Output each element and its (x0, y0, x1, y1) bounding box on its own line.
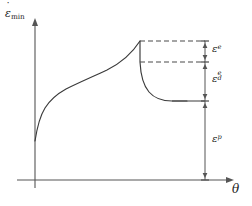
y-axis-label: ˙ ε min (5, 8, 25, 20)
superscript-p: p (217, 133, 221, 141)
strain-curve-rise (35, 41, 140, 141)
y-axis (32, 18, 38, 188)
annotation-elastic-strain: εe (212, 44, 221, 54)
theta-symbol: θ (232, 182, 239, 196)
y-axis-subscript: min (11, 12, 25, 21)
annotation-delayed-elastic-strain: εed (212, 72, 223, 84)
annotation-plastic-strain: εp (212, 134, 222, 144)
strain-curve-unload (140, 41, 187, 101)
superscript-e: e (217, 43, 221, 51)
subscript-d: d (217, 75, 221, 82)
plot-canvas (0, 0, 252, 206)
epsilon-dot-glyph: ˙ ε (5, 8, 11, 19)
strain-rate-diagram: ˙ ε min θ εe εed εp (0, 0, 252, 206)
x-axis-label: θ (232, 183, 239, 195)
superscript-subscript-pair: ed (217, 72, 223, 82)
time-derivative-dot: ˙ (5, 2, 10, 12)
